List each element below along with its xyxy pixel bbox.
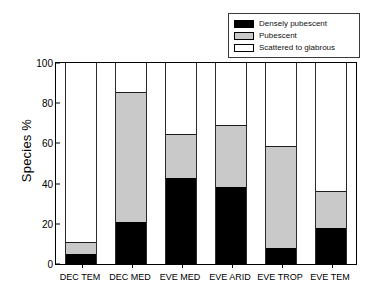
bar-segment-scattered-to-glabrous bbox=[166, 63, 196, 134]
y-axis-tick-label: 100 bbox=[36, 58, 56, 69]
bar-segment-pubescent bbox=[166, 134, 196, 177]
bar-segment-densely-pubescent bbox=[66, 254, 96, 264]
legend-swatch-scattered-to-glabrous bbox=[234, 44, 254, 52]
legend-item-densely-pubescent: Densely pubescent bbox=[234, 18, 354, 29]
y-axis-tick: 0 bbox=[47, 259, 56, 270]
bar-segment-pubescent bbox=[116, 92, 146, 222]
legend-label-densely-pubescent: Densely pubescent bbox=[259, 19, 327, 28]
legend-label-pubescent: Pubescent bbox=[259, 31, 297, 40]
bar-segment-scattered-to-glabrous bbox=[216, 63, 246, 125]
x-axis-label: EVE TEM bbox=[307, 272, 353, 282]
y-axis-title: Species % bbox=[19, 81, 34, 221]
bar-eve-tem[interactable] bbox=[315, 63, 347, 264]
bar-eve-med[interactable] bbox=[165, 63, 197, 264]
y-axis-tick: 20 bbox=[42, 218, 56, 229]
legend-item-pubescent: Pubescent bbox=[234, 30, 354, 41]
y-axis-tick: 60 bbox=[42, 138, 56, 149]
chart-figure: Densely pubescent Pubescent Scattered to… bbox=[0, 0, 370, 303]
legend-swatch-pubescent bbox=[234, 32, 254, 40]
x-axis-tick-mark bbox=[132, 264, 133, 268]
y-axis-tick-label: 40 bbox=[42, 178, 56, 189]
x-axis-label: DEC TEM bbox=[57, 272, 103, 282]
bar-segment-scattered-to-glabrous bbox=[66, 63, 96, 242]
x-axis-label: EVE ARID bbox=[207, 272, 253, 282]
bar-segment-scattered-to-glabrous bbox=[316, 63, 346, 191]
legend-swatch-densely-pubescent bbox=[234, 20, 254, 28]
bar-eve-trop[interactable] bbox=[265, 63, 297, 264]
y-axis-tick-label: 20 bbox=[42, 218, 56, 229]
bar-dec-tem[interactable] bbox=[65, 63, 97, 264]
bar-segment-pubescent bbox=[216, 125, 246, 186]
bar-segment-scattered-to-glabrous bbox=[116, 63, 146, 92]
bar-segment-pubescent bbox=[316, 191, 346, 228]
legend-item-scattered-to-glabrous: Scattered to glabrous bbox=[234, 42, 354, 53]
bar-segment-densely-pubescent bbox=[116, 222, 146, 264]
x-axis-tick-mark bbox=[82, 264, 83, 268]
x-axis-tick-mark bbox=[182, 264, 183, 268]
bar-segment-pubescent bbox=[266, 146, 296, 248]
plot-area: 020406080100 bbox=[55, 62, 357, 265]
x-axis-label: DEC MED bbox=[107, 272, 153, 282]
x-axis-label: EVE MED bbox=[157, 272, 203, 282]
y-axis-tick: 100 bbox=[36, 58, 56, 69]
x-axis-tick-mark bbox=[232, 264, 233, 268]
y-axis-tick: 80 bbox=[42, 98, 56, 109]
y-axis-tick: 40 bbox=[42, 178, 56, 189]
x-axis-labels: DEC TEMDEC MEDEVE MEDEVE ARIDEVE TROPEVE… bbox=[55, 272, 355, 282]
x-axis-tick-mark bbox=[282, 264, 283, 268]
legend-label-scattered-to-glabrous: Scattered to glabrous bbox=[259, 43, 335, 52]
bar-segment-pubescent bbox=[66, 242, 96, 254]
y-axis-tick-label: 0 bbox=[47, 259, 56, 270]
bar-dec-med[interactable] bbox=[115, 63, 147, 264]
bar-segment-densely-pubescent bbox=[216, 187, 246, 264]
bar-segment-densely-pubescent bbox=[316, 228, 346, 264]
bar-eve-arid[interactable] bbox=[215, 63, 247, 264]
bar-segment-scattered-to-glabrous bbox=[266, 63, 296, 146]
x-axis-tick-mark bbox=[332, 264, 333, 268]
chart-legend: Densely pubescent Pubescent Scattered to… bbox=[228, 13, 360, 58]
x-axis-label: EVE TROP bbox=[257, 272, 303, 282]
bar-segment-densely-pubescent bbox=[266, 248, 296, 264]
y-axis-tick-label: 80 bbox=[42, 98, 56, 109]
bar-group bbox=[56, 63, 356, 264]
bar-segment-densely-pubescent bbox=[166, 178, 196, 264]
y-axis-tick-label: 60 bbox=[42, 138, 56, 149]
